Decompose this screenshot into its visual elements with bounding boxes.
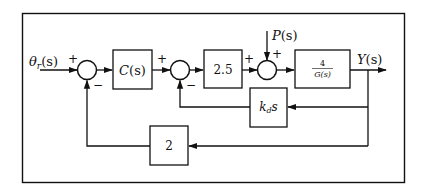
sum1-plus-sign: + [68, 52, 78, 66]
gain-label: 2.5 [213, 63, 232, 77]
controller-label: C(s) [119, 63, 146, 78]
plant-block [295, 50, 350, 88]
sum3-plus-top-sign: + [272, 47, 282, 61]
outer-feedback-label: 2 [165, 139, 173, 153]
diagram-frame [23, 14, 405, 183]
plant-denominator: G(s) [314, 70, 331, 79]
summing-junction-1 [78, 61, 97, 80]
sum2-minus-sign: − [186, 78, 196, 92]
disturbance-label: P(s) [271, 28, 298, 43]
summing-junction-3 [258, 61, 277, 80]
summing-junction-2 [171, 61, 190, 80]
sum3-plus-left-sign: + [244, 52, 254, 66]
sum2-plus-sign: + [157, 52, 167, 66]
output-label: Y(s) [357, 52, 382, 67]
input-label: θr(s) [29, 54, 58, 71]
block-diagram: θr(s) + − C(s) + − 2.5 + + P(s) 4 G(s) Y… [0, 0, 425, 193]
plant-numerator: 4 [320, 59, 325, 68]
sum1-minus-sign: − [93, 78, 103, 92]
